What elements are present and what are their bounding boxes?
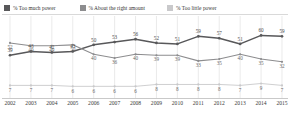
x-axis-labels: 2002200320042005200620072008200920102011… — [0, 100, 290, 114]
legend-item-about-right-amount: % About the right amount — [80, 5, 145, 11]
data-point-label: 7 — [30, 87, 33, 93]
data-point-label: 57 — [217, 30, 223, 36]
x-axis-tick-label: 2012 — [214, 100, 225, 106]
data-point-label: 32 — [279, 63, 285, 69]
data-point-label: 7 — [239, 87, 242, 93]
data-point-label: 9 — [260, 85, 263, 91]
data-point-label: 8 — [218, 86, 221, 92]
data-point — [197, 35, 200, 38]
legend-swatch-too-much-power — [4, 5, 10, 11]
data-point-label: 35 — [258, 60, 264, 66]
data-point-label: 53 — [112, 34, 118, 40]
x-axis-tick-label: 2005 — [67, 100, 78, 106]
legend-item-too-little-power: % Too little power — [167, 5, 216, 11]
data-point — [176, 43, 179, 46]
data-point-label: 56 — [133, 31, 139, 37]
data-point-label: 6 — [92, 88, 95, 94]
data-point-label: 40 — [133, 55, 139, 61]
data-point-label: 60 — [258, 27, 264, 33]
x-axis-tick-label: 2015 — [276, 100, 287, 106]
data-point-label: 40 — [91, 55, 97, 61]
data-point-label: 33 — [196, 62, 202, 68]
data-point-label: 49 — [49, 47, 55, 53]
line-chart-plot: 3943424350535652515957516059524949504036… — [0, 16, 290, 98]
data-point — [113, 41, 116, 44]
data-point-label: 59 — [279, 28, 285, 34]
x-axis-tick-label: 2011 — [193, 100, 204, 106]
data-point — [218, 37, 221, 40]
data-point-label: 39 — [175, 56, 181, 62]
data-point-label: 8 — [176, 86, 179, 92]
data-point-label: 6 — [113, 88, 116, 94]
data-point-label: 51 — [175, 36, 181, 42]
data-point-label: 51 — [238, 36, 244, 42]
data-point — [155, 42, 158, 45]
data-point-label: 40 — [238, 55, 244, 61]
data-point-label: 8 — [155, 86, 158, 92]
x-axis-line — [2, 98, 288, 99]
data-point-label: 6 — [71, 88, 74, 94]
data-point-label: 8 — [197, 86, 200, 92]
x-axis-tick-label: 2002 — [4, 100, 15, 106]
value-labels-layer: 3943424350535652515957516059524949504036… — [7, 27, 285, 93]
x-axis-tick-label: 2009 — [151, 100, 162, 106]
legend-label-too-much-power: % Too much power — [13, 5, 56, 11]
data-point — [134, 38, 137, 41]
x-axis-tick-label: 2013 — [235, 100, 246, 106]
data-point-label: 6 — [134, 88, 137, 94]
data-point-label: 50 — [70, 46, 76, 52]
data-point — [260, 34, 263, 37]
data-point-label: 39 — [154, 56, 160, 62]
data-point-label: 7 — [281, 87, 284, 93]
data-point — [281, 35, 284, 38]
legend-item-too-much-power: % Too much power — [4, 5, 56, 11]
data-point-label: 52 — [154, 35, 160, 41]
x-axis-tick-label: 2004 — [46, 100, 57, 106]
chart-container: % Too much power % About the right amoun… — [0, 0, 290, 118]
chart-svg: 3943424350535652515957516059524949504036… — [0, 16, 290, 98]
data-point-label: 59 — [196, 28, 202, 34]
x-axis-tick-label: 2003 — [25, 100, 36, 106]
data-point-label: 7 — [51, 87, 54, 93]
x-axis-tick-label: 2010 — [172, 100, 183, 106]
legend-label-too-little-power: % Too little power — [176, 5, 216, 11]
data-point — [9, 54, 12, 57]
chart-legend: % Too much power % About the right amoun… — [0, 2, 290, 14]
legend-label-about-right-amount: % About the right amount — [89, 5, 145, 11]
x-axis-tick-label: 2007 — [109, 100, 120, 106]
data-point-label: 35 — [217, 60, 223, 66]
x-axis-tick-label: 2006 — [88, 100, 99, 106]
data-point-label: 36 — [112, 59, 118, 65]
legend-swatch-about-right-amount — [80, 5, 86, 11]
x-axis-tick-label: 2014 — [255, 100, 266, 106]
legend-divider — [2, 14, 288, 15]
x-axis-tick-label: 2008 — [130, 100, 141, 106]
data-point — [92, 44, 95, 47]
data-point-label: 7 — [9, 87, 12, 93]
data-point — [239, 43, 242, 46]
data-point-label: 49 — [28, 47, 34, 53]
data-point-label: 50 — [91, 37, 97, 43]
data-point-label: 52 — [7, 44, 13, 50]
legend-swatch-too-little-power — [167, 5, 173, 11]
